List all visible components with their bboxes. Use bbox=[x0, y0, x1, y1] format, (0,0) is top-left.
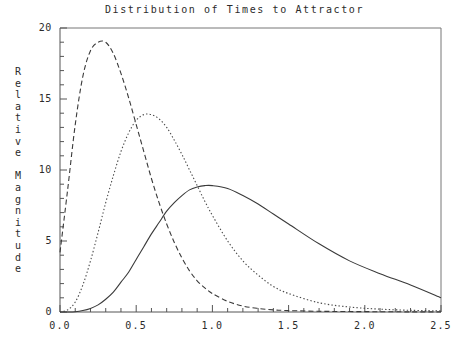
plot-frame bbox=[60, 28, 441, 312]
x-tick-label: 0.5 bbox=[116, 320, 156, 331]
y-tick-label: 20 bbox=[26, 22, 52, 33]
y-tick-label: 15 bbox=[26, 93, 52, 104]
y-tick-label: 5 bbox=[26, 235, 52, 246]
x-tick-label: 1.5 bbox=[269, 320, 309, 331]
data-curves bbox=[60, 41, 441, 312]
x-tick-label: 1.0 bbox=[192, 320, 232, 331]
curve-dashed-distribution bbox=[60, 41, 441, 312]
x-tick-label: 2.0 bbox=[345, 320, 385, 331]
y-axis-ticks bbox=[60, 28, 67, 312]
x-tick-label: 2.5 bbox=[421, 320, 461, 331]
x-axis-ticks bbox=[60, 305, 441, 312]
y-tick-label: 0 bbox=[26, 306, 52, 317]
y-tick-label: 10 bbox=[26, 164, 52, 175]
curve-dotted-distribution bbox=[60, 114, 441, 312]
x-tick-label: 0.0 bbox=[40, 320, 80, 331]
chart-figure: Distribution of Times to Attractor Relat… bbox=[0, 0, 469, 363]
plot-area bbox=[0, 0, 469, 363]
curve-solid-distribution bbox=[60, 185, 441, 312]
